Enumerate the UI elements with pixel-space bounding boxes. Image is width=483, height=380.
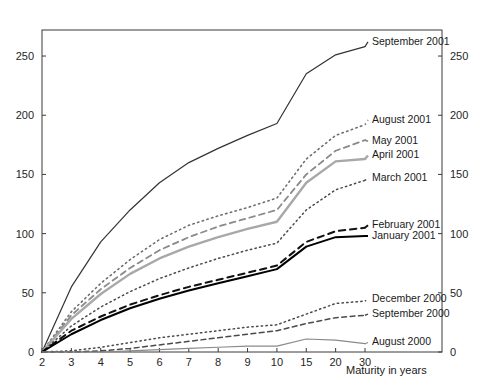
series-label-may-2001: May 2001 [372,134,418,146]
leader-line-may-2001 [365,140,368,141]
series-label-september-2001: September 2001 [372,35,450,47]
series-labels: September 2001August 2001May 2001April 2… [372,35,450,348]
series-line-march-2001 [42,180,365,352]
y-tick-label-left-250: 250 [16,50,34,62]
x-tick-label-4: 4 [98,356,104,368]
series-label-august-2001: August 2001 [372,113,431,125]
series-label-january-2001: January 2001 [372,229,436,241]
y-tick-label-left-200: 200 [16,109,34,121]
plot-frame [42,30,442,352]
series-line-january-2001 [42,236,365,352]
series-line-august-2001 [42,125,365,352]
leader-line-september-2000 [365,314,368,315]
y-tick-label-right-50: 50 [450,287,462,299]
x-axis-labels: 2345678910152030 [39,356,371,368]
y-tick-label-right-250: 250 [450,50,468,62]
x-tick-label-2: 2 [39,356,45,368]
x-tick-label-7: 7 [186,356,192,368]
y-axis-labels-right: 050100150200250 [450,50,468,358]
data-series-group [42,47,365,352]
series-line-september-2001 [42,47,365,352]
leader-line-august-2000 [365,343,368,344]
x-axis-title: Maturity in years [346,364,427,376]
y-axis-labels-left: 050100150200250 [16,50,34,358]
x-tick-label-3: 3 [68,356,74,368]
series-label-august-2000: August 2000 [372,335,431,347]
leader-line-august-2001 [365,120,368,125]
y-tick-label-right-150: 150 [450,168,468,180]
y-tick-label-left-100: 100 [16,228,34,240]
x-tick-label-15: 15 [300,356,312,368]
leader-line-april-2001 [365,155,368,159]
leader-line-december-2000 [365,299,368,301]
chart-container: 050100150200250 050100150200250 23456789… [0,0,483,380]
y-tick-label-right-0: 0 [450,346,456,358]
x-tick-label-9: 9 [244,356,250,368]
series-line-april-2001 [42,159,365,352]
series-line-august-2000 [42,339,365,352]
series-label-april-2001: April 2001 [372,148,419,160]
series-line-february-2001 [42,228,365,352]
x-tick-label-6: 6 [156,356,162,368]
series-line-may-2001 [42,140,365,352]
series-line-december-2000 [42,301,365,352]
series-label-september-2000: September 2000 [372,307,450,319]
x-tick-label-10: 10 [271,356,283,368]
leader-line-february-2001 [365,225,368,227]
series-leader-lines [365,42,368,344]
series-label-december-2000: December 2000 [372,292,447,304]
x-tick-label-20: 20 [330,356,342,368]
y-tick-label-left-0: 0 [28,346,34,358]
x-tick-label-5: 5 [127,356,133,368]
series-label-march-2001: March 2001 [372,171,428,183]
line-chart: 050100150200250 050100150200250 23456789… [0,0,483,380]
y-tick-label-right-200: 200 [450,109,468,121]
y-tick-label-left-150: 150 [16,168,34,180]
y-tick-label-left-50: 50 [22,287,34,299]
y-tick-label-right-100: 100 [450,228,468,240]
leader-line-march-2001 [365,178,368,180]
leader-line-september-2001 [365,42,368,47]
x-tick-label-8: 8 [215,356,221,368]
